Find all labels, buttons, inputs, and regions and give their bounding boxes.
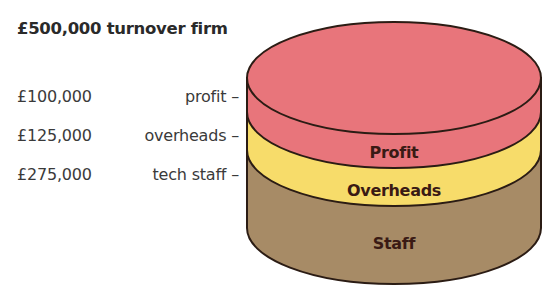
overheads-segment-label: Overheads bbox=[347, 181, 441, 200]
cylinder-top bbox=[247, 22, 541, 134]
staff-segment-label: Staff bbox=[373, 234, 417, 253]
profit-segment-label: Profit bbox=[370, 143, 420, 162]
cylinder-diagram: Profit Overheads Staff bbox=[0, 0, 556, 298]
